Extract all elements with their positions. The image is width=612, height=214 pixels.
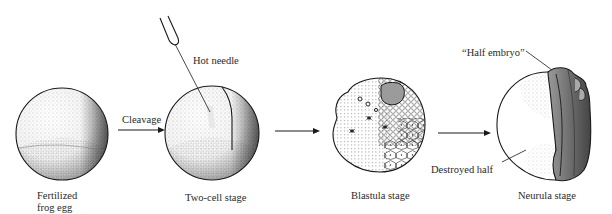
neurula-stage-label: Neurula stage xyxy=(518,190,576,202)
arrow-to-neurula xyxy=(438,130,491,136)
fertilized-egg-label-line1: Fertilized xyxy=(37,190,77,202)
half-embryo-label: “Half embryo” xyxy=(462,47,525,59)
cleavage-arrow xyxy=(118,127,165,133)
destroyed-half-label: Destroyed half xyxy=(431,164,493,176)
hot-needle-label: Hot needle xyxy=(193,55,239,67)
fertilized-egg-label-line2: frog egg xyxy=(37,202,72,214)
two-cell-egg xyxy=(162,86,262,182)
cleavage-label: Cleavage xyxy=(122,114,161,126)
embryo-diagram xyxy=(0,0,612,214)
blastula-stage-label: Blastula stage xyxy=(351,190,410,202)
neurula xyxy=(497,51,591,181)
blastula xyxy=(330,76,430,176)
two-cell-stage-label: Two-cell stage xyxy=(185,192,246,204)
arrow-to-blastula xyxy=(275,128,320,134)
fertilized-egg xyxy=(12,88,112,182)
